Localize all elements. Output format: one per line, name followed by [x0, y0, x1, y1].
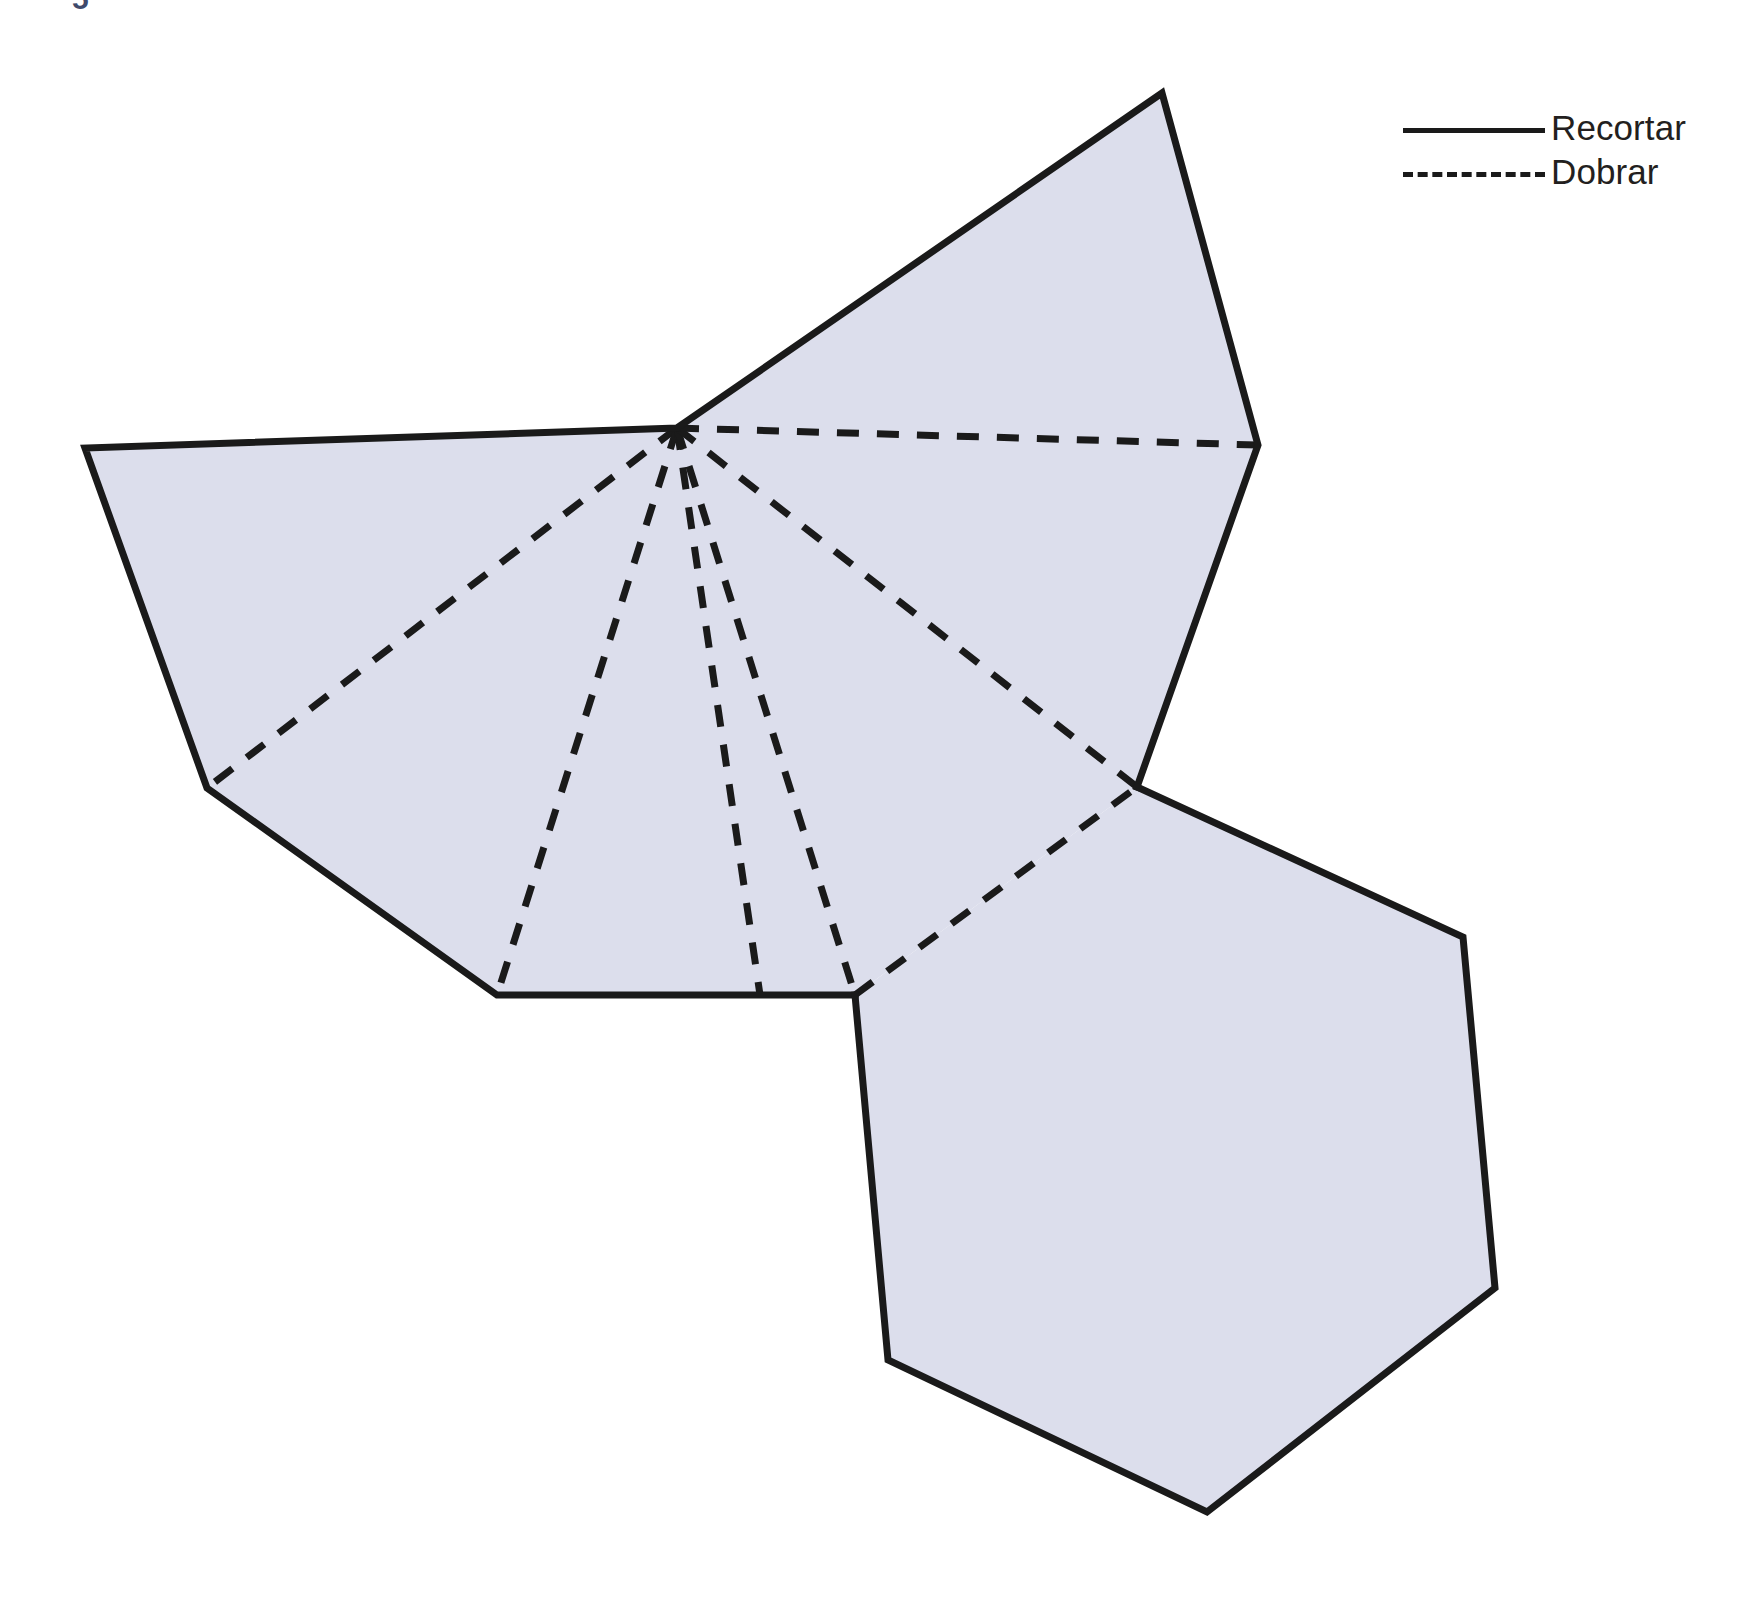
polyhedron-net-figure: [0, 0, 1761, 1597]
legend-item-recortar: Recortar: [1323, 106, 1723, 150]
dashed-line-swatch: [1403, 166, 1545, 178]
legend-item-dobrar: Dobrar: [1323, 150, 1723, 194]
solid-line-swatch: [1403, 122, 1545, 134]
legend-label-dobrar: Dobrar: [1551, 152, 1723, 192]
legend-label-recortar: Recortar: [1551, 108, 1723, 148]
net-fills: [85, 93, 1495, 1512]
legend: Recortar Dobrar: [1323, 106, 1723, 202]
